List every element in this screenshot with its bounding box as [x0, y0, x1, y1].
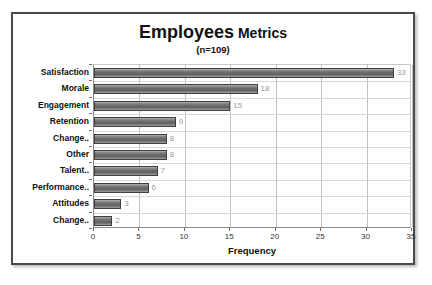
x-axis-tick	[275, 228, 276, 231]
y-axis-tick	[89, 113, 92, 114]
y-axis-category-label: Retention	[11, 113, 89, 129]
y-axis-category-label: Performance..	[11, 179, 89, 195]
chart-title-secondary: Metrics	[238, 25, 287, 41]
x-axis-tick	[229, 228, 230, 231]
x-axis-title: Frequency	[93, 245, 411, 256]
bar-value-label: 7	[161, 164, 165, 177]
bar-value-label: 8	[170, 148, 174, 161]
y-axis-tick	[89, 80, 92, 81]
bar[interactable]	[94, 134, 167, 144]
x-axis-tick	[138, 228, 139, 231]
y-axis-category-label: Change..	[11, 130, 89, 146]
y-axis-category-label: Satisfaction	[11, 64, 89, 80]
x-axis-tick-label: 0	[91, 232, 95, 241]
bar[interactable]	[94, 84, 258, 94]
bar-row: 8	[94, 131, 410, 147]
bar-value-label: 8	[170, 132, 174, 145]
y-axis-tick	[89, 97, 92, 98]
bar-value-label: 9	[179, 115, 183, 128]
y-axis-category-label: Other	[11, 146, 89, 162]
y-axis-tick	[89, 130, 92, 131]
bar-value-label: 6	[152, 181, 156, 194]
y-axis-category-label: Change..	[11, 212, 89, 228]
bar[interactable]	[94, 150, 167, 160]
y-axis-tick	[89, 212, 92, 213]
bar-row: 3	[94, 196, 410, 212]
y-axis-tick	[89, 195, 92, 196]
y-axis-tick	[89, 179, 92, 180]
bar[interactable]	[94, 101, 230, 111]
bar[interactable]	[94, 183, 149, 193]
chart-title-main: Employees	[139, 22, 234, 42]
bar-value-label: 3	[124, 197, 128, 210]
y-axis-tick	[89, 162, 92, 163]
x-axis-ticks: 05101520253035	[93, 228, 411, 244]
bar-row: 2	[94, 213, 410, 229]
bar-value-label: 2	[115, 214, 119, 227]
bar-row: 7	[94, 163, 410, 179]
gridline-vertical	[412, 65, 413, 227]
x-axis-tick-label: 25	[316, 232, 325, 241]
bar-value-label: 33	[397, 66, 406, 79]
y-axis-category-label: Talent..	[11, 162, 89, 178]
x-axis-tick	[184, 228, 185, 231]
x-axis-tick-label: 5	[136, 232, 140, 241]
bar-row: 6	[94, 180, 410, 196]
y-axis-tick	[89, 64, 92, 65]
x-axis-tick	[411, 228, 412, 231]
bar-row: 18	[94, 81, 410, 97]
y-axis-tick	[89, 228, 92, 229]
x-axis-tick	[93, 228, 94, 231]
x-axis-tick-label: 30	[361, 232, 370, 241]
plot-area: 3318159887632	[93, 64, 411, 228]
y-axis-labels: SatisfactionMoraleEngagementRetentionCha…	[13, 64, 89, 228]
bar-row: 9	[94, 114, 410, 130]
y-axis-category-label: Attitudes	[11, 195, 89, 211]
x-axis-tick-label: 20	[270, 232, 279, 241]
x-axis-tick-label: 35	[407, 232, 416, 241]
bar[interactable]	[94, 166, 158, 176]
bar[interactable]	[94, 216, 112, 226]
bar-row: 33	[94, 65, 410, 81]
bar[interactable]	[94, 68, 394, 78]
chart-subtitle: (n=109)	[13, 44, 413, 56]
x-axis-tick-label: 10	[179, 232, 188, 241]
x-axis-tick-label: 15	[225, 232, 234, 241]
bar-row: 15	[94, 98, 410, 114]
x-axis-tick	[320, 228, 321, 231]
y-axis-tick	[89, 146, 92, 147]
y-axis-category-label: Engagement	[11, 97, 89, 113]
chart-frame: Employees Metrics (n=109) SatisfactionMo…	[11, 12, 415, 265]
chart-title-block: Employees Metrics (n=109)	[13, 22, 413, 56]
bar-row: 8	[94, 147, 410, 163]
y-axis-category-label: Morale	[11, 80, 89, 96]
bar[interactable]	[94, 117, 176, 127]
chart-title: Employees Metrics	[13, 22, 413, 43]
bar[interactable]	[94, 199, 121, 209]
bar-value-label: 15	[233, 99, 242, 112]
x-axis-tick	[366, 228, 367, 231]
bar-value-label: 18	[261, 82, 270, 95]
